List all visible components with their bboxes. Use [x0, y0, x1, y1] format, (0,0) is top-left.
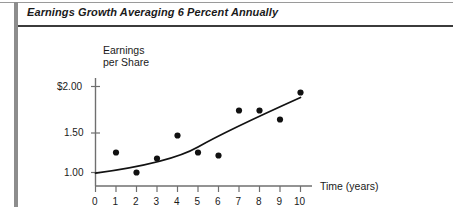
data-point — [215, 152, 221, 158]
figure-container: Earnings Growth Averaging 6 Percent Annu… — [0, 0, 453, 223]
x-axis-title: Time (years) — [320, 180, 379, 192]
x-tick-marks — [96, 186, 301, 192]
x-tick-label-10: 10 — [294, 196, 305, 207]
y-tick-label-2-00: $2.00 — [57, 81, 82, 92]
data-point — [113, 149, 119, 155]
x-tick-label-5: 5 — [195, 196, 201, 207]
data-point — [297, 89, 303, 95]
x-tick-label-7: 7 — [236, 196, 242, 207]
data-point — [133, 169, 139, 175]
data-point — [256, 107, 262, 113]
data-point — [236, 107, 242, 113]
x-tick-label-6: 6 — [215, 196, 221, 207]
y-tick-label-1-00: 1.00 — [64, 167, 83, 178]
y-axis-title-line-1: Earnings — [103, 44, 144, 56]
x-tick-label-0: 0 — [92, 196, 98, 207]
data-point — [195, 149, 201, 155]
chart-svg — [0, 0, 453, 223]
x-tick-label-1: 1 — [113, 196, 119, 207]
chart-plot-area: $2.00 1.50 1.00 Earnings per Share 0 1 2… — [0, 0, 453, 223]
x-tick-label-2: 2 — [133, 196, 139, 207]
x-tick-label-8: 8 — [256, 196, 262, 207]
y-tick-label-1-50: 1.50 — [64, 127, 83, 138]
y-axis-title-line-2: per Share — [103, 56, 149, 68]
x-tick-label-9: 9 — [277, 196, 283, 207]
data-point — [277, 116, 283, 122]
data-point — [154, 155, 160, 161]
x-tick-label-4: 4 — [174, 196, 180, 207]
data-point-markers — [113, 89, 304, 175]
data-point — [174, 132, 180, 138]
trend-line — [96, 98, 301, 174]
x-tick-label-3: 3 — [154, 196, 160, 207]
